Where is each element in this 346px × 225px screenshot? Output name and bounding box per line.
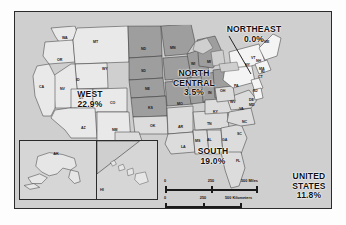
alaska-shape: AK bbox=[20, 141, 96, 199]
scale-bar-miles: 0 250 500 Miles bbox=[161, 182, 273, 194]
scale-km-unit: 500 Kilometers bbox=[225, 196, 252, 200]
scale-km-tick-0: 0 bbox=[164, 196, 166, 200]
alaska-abbr-label: AK bbox=[53, 152, 59, 156]
map-frame: WAORCANVIDMTWYUTCOAZNMNDSDNEKSOKTXMNIAMO… bbox=[14, 11, 332, 209]
alaska-inset: AK bbox=[19, 140, 97, 200]
us-region-percentage-map: WAORCANVIDMTWYUTCOAZNMNDSDNEKSOKTXMNIAMO… bbox=[0, 0, 346, 225]
hawaii-inset: HI bbox=[96, 140, 158, 200]
hawaii-abbr-label: HI bbox=[100, 188, 104, 192]
scale-bar: 0 250 500 Miles 0 250 500 Kilometers bbox=[161, 182, 273, 208]
hawaii-shape: HI bbox=[97, 141, 157, 199]
scale-miles-unit: 500 Miles bbox=[241, 179, 258, 183]
scale-km-tick-250: 250 bbox=[200, 196, 206, 200]
scale-bar-kilometers: 0 250 500 Kilometers bbox=[161, 199, 273, 209]
scale-miles-tick-250: 250 bbox=[208, 179, 214, 183]
canada-backdrop bbox=[15, 12, 331, 26]
scale-miles-tick-0: 0 bbox=[164, 179, 166, 183]
region-shape-west bbox=[33, 26, 131, 144]
